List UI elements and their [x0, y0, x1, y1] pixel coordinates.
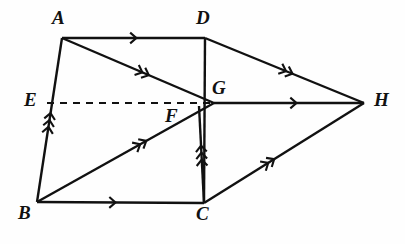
vertex-label-E: E [24, 90, 37, 109]
edge-DC [204, 38, 205, 203]
vertex-label-F: F [165, 106, 178, 125]
vertex-label-B: B [18, 203, 31, 222]
edge-layer [37, 38, 364, 203]
geometry-figure: A D E F G H B C [0, 0, 405, 244]
edge-DH [205, 38, 364, 103]
edge-CH [204, 103, 364, 203]
edge-BG [37, 103, 214, 202]
vertex-label-D: D [196, 8, 210, 27]
vertex-label-H: H [374, 90, 389, 109]
vertex-label-G: G [212, 78, 226, 97]
edge-BC [37, 202, 204, 203]
edge-AG [62, 38, 214, 103]
vertex-label-C: C [196, 204, 209, 223]
vertex-label-A: A [52, 8, 65, 27]
